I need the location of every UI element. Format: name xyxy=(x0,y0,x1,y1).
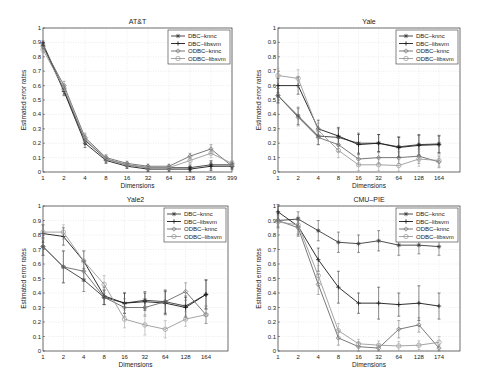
star-marker xyxy=(417,243,421,247)
x-tick-label: 174 xyxy=(434,354,445,360)
star-marker xyxy=(172,212,176,216)
chart-title: CMU–PIE xyxy=(353,196,384,203)
plus-marker xyxy=(417,143,421,147)
chart-title: Yale2 xyxy=(127,196,144,203)
y-tick-label: 0.6 xyxy=(268,83,277,89)
y-tick-label: 0.8 xyxy=(33,232,42,238)
legend-entry: ODBC–knnc xyxy=(188,48,221,54)
chart-title: AT&T xyxy=(129,18,147,25)
chart-panel-2: 00.10.20.30.40.50.60.70.80.9112481632641… xyxy=(255,18,460,189)
y-tick-label: 0.1 xyxy=(268,334,277,340)
star-marker xyxy=(397,243,401,247)
star-marker xyxy=(404,212,408,216)
legend: DBC–knncDBC–libsvmODBC–knncODBC–libsvm xyxy=(396,30,458,64)
chart-title: Yale xyxy=(362,18,376,25)
x-axis-label: Dimensions xyxy=(352,182,387,189)
y-tick-label: 0.1 xyxy=(33,155,42,161)
legend-entry: ODBC–knnc xyxy=(184,226,217,232)
y-tick-label: 0.5 xyxy=(33,276,42,282)
x-tick-label: 256 xyxy=(206,175,217,181)
star-marker xyxy=(376,239,380,243)
y-tick-label: 0.8 xyxy=(33,54,42,60)
x-tick-label: 16 xyxy=(355,354,362,360)
legend-entry: ODBC–knnc xyxy=(416,226,449,232)
x-tick-label: 1 xyxy=(41,354,45,360)
y-tick-label: 0.4 xyxy=(268,290,277,296)
y-tick-label: 1 xyxy=(273,203,277,209)
legend-entry: DBC–knnc xyxy=(416,211,445,217)
x-tick-label: 2 xyxy=(62,175,66,181)
y-axis-label: Estimated error rates xyxy=(255,247,262,308)
legend-entry: ODBC–libsvm xyxy=(184,234,222,240)
y-tick-label: 0.7 xyxy=(33,247,42,253)
y-tick-label: 0.1 xyxy=(33,334,42,340)
x-tick-label: 8 xyxy=(337,175,341,181)
legend-entry: ODBC–libsvm xyxy=(416,56,454,62)
x-tick-label: 2 xyxy=(296,175,300,181)
x-tick-label: 32 xyxy=(375,354,382,360)
y-tick-label: 1 xyxy=(38,203,42,209)
x-tick-label: 4 xyxy=(317,354,321,360)
x-tick-label: 4 xyxy=(82,354,86,360)
x-tick-label: 128 xyxy=(414,354,425,360)
x-tick-label: 16 xyxy=(355,175,362,181)
chart-panel-1: 00.10.20.30.40.50.60.70.80.9112481632641… xyxy=(20,18,238,189)
y-tick-label: 0.2 xyxy=(268,319,277,325)
x-tick-label: 8 xyxy=(337,354,341,360)
star-marker xyxy=(404,34,408,38)
plus-marker xyxy=(417,301,421,305)
y-tick-label: 0.3 xyxy=(33,126,42,132)
y-tick-label: 0.5 xyxy=(268,97,277,103)
x-axis-label: Dimensions xyxy=(119,361,154,368)
x-tick-label: 1 xyxy=(41,175,45,181)
x-tick-label: 64 xyxy=(395,175,402,181)
legend-entry: DBC–libsvm xyxy=(416,41,449,47)
y-tick-label: 0.9 xyxy=(33,39,42,45)
x-tick-label: 4 xyxy=(317,175,321,181)
plus-marker xyxy=(376,301,380,305)
y-tick-label: 0.6 xyxy=(268,261,277,267)
star-marker xyxy=(176,34,180,38)
y-tick-label: 0.6 xyxy=(33,261,42,267)
legend-entry: ODBC–libsvm xyxy=(188,56,226,62)
x-tick-label: 399 xyxy=(227,175,238,181)
x-tick-label: 16 xyxy=(124,175,131,181)
x-tick-label: 1 xyxy=(276,175,280,181)
y-tick-label: 0.4 xyxy=(33,111,42,117)
legend-entry: DBC–libsvm xyxy=(416,219,449,225)
y-tick-label: 0.4 xyxy=(33,290,42,296)
x-tick-label: 164 xyxy=(201,354,212,360)
y-tick-label: 0.3 xyxy=(268,305,277,311)
x-tick-label: 2 xyxy=(296,354,300,360)
y-tick-label: 0.5 xyxy=(33,97,42,103)
y-tick-label: 1 xyxy=(273,25,277,31)
y-tick-label: 0.2 xyxy=(33,319,42,325)
y-tick-label: 0.8 xyxy=(268,54,277,60)
chart-panel-4: 00.10.20.30.40.50.60.70.80.9112481632641… xyxy=(255,196,460,368)
y-tick-label: 0.8 xyxy=(268,232,277,238)
y-tick-label: 0.6 xyxy=(33,83,42,89)
legend-entry: DBC–libsvm xyxy=(188,41,221,47)
x-tick-label: 64 xyxy=(162,354,169,360)
x-tick-label: 1 xyxy=(276,354,280,360)
y-tick-label: 0.7 xyxy=(33,68,42,74)
x-tick-label: 64 xyxy=(166,175,173,181)
x-tick-label: 32 xyxy=(375,175,382,181)
x-tick-label: 4 xyxy=(83,175,87,181)
star-marker xyxy=(316,228,320,232)
x-tick-label: 128 xyxy=(414,175,425,181)
y-tick-label: 0.9 xyxy=(268,39,277,45)
x-tick-label: 8 xyxy=(102,354,106,360)
y-axis-label: Estimated error rates xyxy=(255,69,262,130)
x-tick-label: 164 xyxy=(434,175,445,181)
legend-entry: ODBC–libsvm xyxy=(416,234,454,240)
plus-marker xyxy=(276,83,280,87)
x-tick-label: 16 xyxy=(121,354,128,360)
x-tick-label: 128 xyxy=(181,354,192,360)
x-tick-label: 32 xyxy=(145,175,152,181)
y-axis-label: Estimated error rates xyxy=(20,247,27,308)
y-tick-label: 0.1 xyxy=(268,155,277,161)
legend-entry: DBC–knnc xyxy=(184,211,213,217)
x-tick-label: 32 xyxy=(142,354,149,360)
star-marker xyxy=(437,244,441,248)
